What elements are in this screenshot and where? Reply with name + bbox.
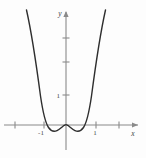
plot-canvas: -1 1 1 x y [0, 0, 146, 158]
y-axis-arrowhead [63, 11, 68, 17]
graph-figure: — —— ——— — —— —— ——— — ——— —— -1 1 1 x y [0, 0, 146, 158]
x-tick-label-1: 1 [93, 129, 97, 137]
x-axis-label: x [130, 129, 135, 138]
y-axis-label: y [57, 9, 62, 18]
x-tick-label-minus1: -1 [38, 129, 44, 137]
y-tick-label-1: 1 [57, 92, 61, 100]
x-axis-arrowhead [132, 122, 138, 127]
